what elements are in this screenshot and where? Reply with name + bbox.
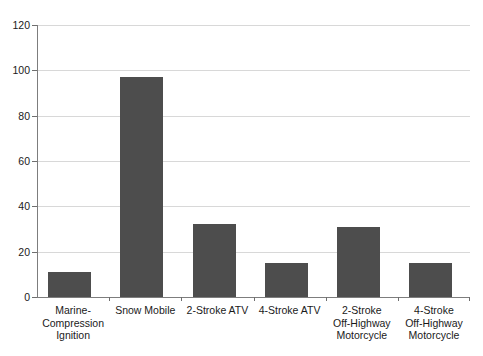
y-tick-label: 20 — [2, 247, 30, 258]
bar-marine-compression-ignition — [48, 272, 91, 297]
bar-snow-mobile — [120, 77, 163, 297]
y-tick-label: 60 — [2, 156, 30, 167]
y-axis-labels: 120 100 80 60 40 20 0 — [0, 0, 30, 356]
bar-4-stroke-atv — [265, 263, 308, 297]
bars-layer — [37, 25, 470, 297]
x-tick-mark — [254, 297, 255, 301]
x-tick-mark — [469, 297, 470, 301]
x-tick-mark — [109, 297, 110, 301]
y-tick-label: 80 — [2, 111, 30, 122]
x-axis-label-2-stroke-atv: 2-Stroke ATV — [181, 304, 253, 356]
x-axis-label-2-stroke-off-highway-motorcycle: 2-Stroke Off-Highway Motorcycle — [326, 304, 398, 356]
x-axis-labels: Marine- Compression Ignition Snow Mobile… — [37, 304, 470, 356]
x-tick-mark — [398, 297, 399, 301]
bar-2-stroke-off-highway-motorcycle — [337, 227, 380, 297]
bar-chart: 120 100 80 60 40 20 0 — [0, 0, 483, 356]
x-tick-mark — [181, 297, 182, 301]
x-axis-label-snow-mobile: Snow Mobile — [109, 304, 181, 356]
bar-2-stroke-atv — [193, 224, 236, 297]
x-tick-mark — [326, 297, 327, 301]
y-tick-label: 40 — [2, 201, 30, 212]
x-axis-tick-marks — [37, 297, 470, 302]
y-tick-label: 0 — [2, 292, 30, 303]
bar-4-stroke-off-highway-motorcycle — [409, 263, 452, 297]
x-axis-label-4-stroke-off-highway-motorcycle: 4-Stroke Off-Highway Motorcycle — [398, 304, 470, 356]
x-axis-label-marine-compression-ignition: Marine- Compression Ignition — [37, 304, 109, 356]
x-axis-label-4-stroke-atv: 4-Stroke ATV — [254, 304, 326, 356]
y-tick-label: 120 — [2, 20, 30, 31]
y-tick-label: 100 — [2, 65, 30, 76]
